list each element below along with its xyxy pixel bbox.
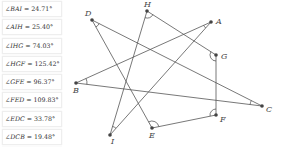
- segment-ba: [76, 22, 211, 83]
- angle-arc-h: [145, 15, 153, 18]
- point-e[interactable]: [150, 126, 154, 130]
- segment-dc: [92, 20, 262, 106]
- point-label-e: E: [148, 131, 155, 140]
- segment-ed: [92, 20, 152, 128]
- point-b[interactable]: [74, 81, 78, 85]
- segment-ai: [110, 22, 211, 135]
- angle-arc-e: [149, 121, 159, 127]
- point-h[interactable]: [145, 9, 149, 13]
- point-g[interactable]: [214, 53, 218, 57]
- angle-arc-a: [204, 25, 206, 28]
- point-d[interactable]: [90, 18, 94, 22]
- point-label-i: I: [110, 137, 115, 146]
- angle-arc-d: [96, 24, 99, 27]
- star-polygon-figure: AIHGFEDCB: [0, 0, 291, 147]
- point-c[interactable]: [260, 104, 264, 108]
- point-label-b: B: [72, 86, 79, 95]
- point-f[interactable]: [214, 113, 218, 117]
- point-label-a: A: [215, 17, 222, 26]
- segment-fe: [152, 115, 216, 128]
- angle-arc-i: [113, 126, 116, 128]
- point-label-h: H: [143, 0, 152, 9]
- point-label-c: C: [266, 105, 272, 114]
- segment-cb: [76, 83, 262, 106]
- segment-ih: [110, 11, 147, 135]
- segment-hg: [147, 11, 216, 55]
- angle-arc-b: [86, 78, 87, 84]
- point-a[interactable]: [209, 20, 213, 24]
- angle-arc-c: [250, 101, 251, 105]
- point-label-f: F: [219, 115, 226, 124]
- point-label-d: D: [84, 9, 92, 18]
- point-label-g: G: [221, 52, 228, 61]
